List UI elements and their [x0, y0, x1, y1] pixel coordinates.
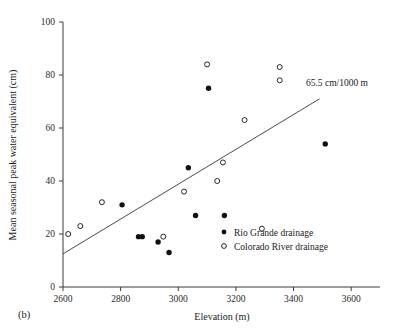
data-point-filled-circle: [206, 86, 211, 91]
x-axis-tick-label: 2600: [54, 294, 73, 304]
x-axis-title: Elevation (m): [194, 311, 249, 323]
data-point-filled-circle: [323, 141, 328, 146]
panel-label: (b): [18, 309, 31, 321]
y-axis-tick-label: 40: [46, 176, 56, 186]
legend-label-rio-grande: Rio Grande drainage: [234, 228, 313, 238]
data-point-filled-circle: [119, 202, 124, 207]
x-axis-tick-label: 3600: [342, 294, 361, 304]
data-point-filled-circle: [155, 239, 160, 244]
x-axis-tick-label: 2800: [111, 294, 130, 304]
x-axis-tick-label: 3000: [169, 294, 188, 304]
y-axis-tick-label: 20: [46, 229, 56, 239]
x-axis-tick-label: 3200: [226, 294, 245, 304]
y-axis-tick-label: 100: [41, 17, 56, 27]
y-axis-tick-label: 80: [46, 70, 56, 80]
x-axis-tick-label: 3400: [284, 294, 303, 304]
chart-canvas: 020406080100 260028003000320034003600 65…: [0, 0, 397, 335]
data-point-filled-circle: [186, 165, 191, 170]
trend-annotation-label: 65.5 cm/1000 m: [306, 78, 369, 88]
data-point-filled-circle: [140, 234, 145, 239]
y-axis-tick-label: 60: [46, 123, 56, 133]
data-point-filled-circle: [222, 213, 227, 218]
legend-marker-filled-circle-icon: [222, 230, 227, 235]
y-axis-title: Mean seasonal peak water equivalent (cm): [7, 70, 19, 241]
scatter-plot-figure: 020406080100 260028003000320034003600 65…: [0, 0, 397, 335]
data-point-filled-circle: [166, 250, 171, 255]
y-axis-tick-label: 0: [50, 282, 55, 292]
legend-label-colorado-river: Colorado River drainage: [234, 242, 328, 252]
chart-background: [0, 0, 397, 335]
data-point-filled-circle: [193, 213, 198, 218]
